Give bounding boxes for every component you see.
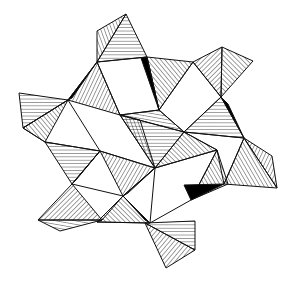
hatched-face <box>221 47 253 97</box>
polyhedral-structure-diagram <box>0 0 287 284</box>
tetrahedron-t13 <box>97 196 150 223</box>
diagram-stage: Ring of hatched tetrahedra linked by cor… <box>0 0 287 284</box>
tetrahedron-t15 <box>145 221 195 268</box>
hatched-face <box>97 196 150 223</box>
tetrahedron-t1 <box>97 14 147 62</box>
shadow-face <box>184 184 224 200</box>
hatched-face <box>38 184 102 220</box>
tetrahedron-t11 <box>38 184 102 231</box>
hatched-face <box>38 220 102 231</box>
